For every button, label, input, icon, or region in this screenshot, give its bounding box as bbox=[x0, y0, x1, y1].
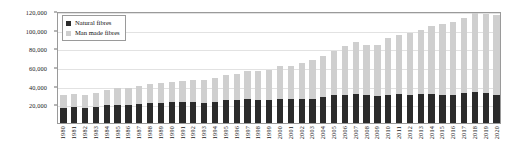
bar-group bbox=[212, 78, 218, 123]
bar-segment-man-made-fibres bbox=[125, 88, 131, 105]
bar-segment-natural-fibres bbox=[266, 100, 272, 123]
bar-segment-natural-fibres bbox=[71, 107, 77, 123]
bar-group bbox=[461, 18, 467, 123]
x-tick-label: 2013 bbox=[417, 126, 424, 139]
bar-segment-man-made-fibres bbox=[255, 71, 261, 100]
bar-group bbox=[320, 56, 326, 123]
x-axis: 1980198119821983198419851986198719881989… bbox=[0, 126, 524, 160]
x-tick-label: 2011 bbox=[395, 126, 402, 139]
bar-segment-man-made-fibres bbox=[331, 51, 337, 95]
bar-group bbox=[179, 81, 185, 123]
bar-segment-natural-fibres bbox=[461, 93, 467, 123]
x-tick-label: 1986 bbox=[124, 126, 131, 139]
bar-group bbox=[299, 63, 305, 123]
x-tick-label: 1997 bbox=[244, 126, 251, 139]
legend: Natural fibres Man made fibres bbox=[62, 15, 126, 41]
x-tick-label: 1988 bbox=[146, 126, 153, 139]
bar-segment-man-made-fibres bbox=[60, 95, 66, 108]
x-tick-label: 1998 bbox=[254, 126, 261, 139]
x-tick-label: 1984 bbox=[103, 126, 110, 139]
y-tick-label: 120,000 bbox=[26, 9, 47, 16]
bar-segment-man-made-fibres bbox=[71, 94, 77, 107]
bar-group bbox=[266, 70, 272, 123]
x-tick-label: 1985 bbox=[114, 126, 121, 139]
x-tick-label: 2020 bbox=[493, 126, 500, 139]
stacked-bar-chart: 20,00040,00060,00080,000100,000120,000 N… bbox=[0, 0, 524, 160]
y-tick-label: 60,000 bbox=[29, 65, 47, 72]
bar-group bbox=[472, 13, 478, 123]
legend-item-natural-fibres: Natural fibres bbox=[66, 18, 120, 28]
bar-segment-natural-fibres bbox=[439, 95, 445, 123]
x-tick-label: 1990 bbox=[168, 126, 175, 139]
y-tick-label: 100,000 bbox=[26, 27, 47, 34]
bar-group bbox=[136, 86, 142, 123]
bar-segment-natural-fibres bbox=[104, 105, 110, 123]
x-tick-label: 1982 bbox=[81, 126, 88, 139]
bar-segment-man-made-fibres bbox=[114, 88, 120, 104]
x-tick-label: 1980 bbox=[59, 126, 66, 139]
bar-segment-natural-fibres bbox=[82, 108, 88, 123]
bar-segment-natural-fibres bbox=[374, 96, 380, 123]
bar-segment-natural-fibres bbox=[169, 102, 175, 123]
x-tick-label: 2006 bbox=[341, 126, 348, 139]
bar-segment-man-made-fibres bbox=[493, 15, 499, 95]
x-tick-label: 2010 bbox=[384, 126, 391, 139]
bar-segment-man-made-fibres bbox=[288, 66, 294, 99]
bar-segment-natural-fibres bbox=[385, 95, 391, 123]
bar-segment-man-made-fibres bbox=[190, 80, 196, 102]
y-tick-label: 20,000 bbox=[29, 102, 47, 109]
x-tick-label: 2007 bbox=[352, 126, 359, 139]
x-tick-label: 1995 bbox=[222, 126, 229, 139]
bar-segment-man-made-fibres bbox=[223, 75, 229, 100]
bar-group bbox=[147, 84, 153, 123]
bar-segment-man-made-fibres bbox=[244, 71, 250, 99]
bar-group bbox=[483, 14, 489, 123]
bar-segment-natural-fibres bbox=[201, 103, 207, 123]
bar-segment-man-made-fibres bbox=[472, 13, 478, 92]
bar-segment-man-made-fibres bbox=[158, 83, 164, 103]
bar-segment-natural-fibres bbox=[179, 102, 185, 123]
y-tick-label: 80,000 bbox=[29, 46, 47, 53]
bar-segment-man-made-fibres bbox=[407, 33, 413, 94]
bar-group bbox=[353, 42, 359, 123]
bar-segment-man-made-fibres bbox=[320, 56, 326, 97]
bar-segment-natural-fibres bbox=[483, 93, 489, 123]
bar-group bbox=[201, 80, 207, 123]
bar-segment-natural-fibres bbox=[493, 95, 499, 123]
bar-segment-natural-fibres bbox=[190, 102, 196, 123]
bar-segment-natural-fibres bbox=[331, 95, 337, 123]
bar-segment-man-made-fibres bbox=[353, 42, 359, 94]
x-tick-label: 1996 bbox=[233, 126, 240, 139]
bar-group bbox=[288, 66, 294, 123]
bar-group bbox=[71, 94, 77, 123]
bar-segment-man-made-fibres bbox=[396, 35, 402, 93]
x-tick-label: 2008 bbox=[363, 126, 370, 139]
bar-segment-natural-fibres bbox=[450, 95, 456, 123]
bar-group bbox=[223, 75, 229, 123]
bar-group bbox=[450, 22, 456, 123]
bar-segment-natural-fibres bbox=[212, 102, 218, 123]
bar-segment-natural-fibres bbox=[93, 107, 99, 123]
bar-segment-natural-fibres bbox=[407, 95, 413, 123]
bar-segment-natural-fibres bbox=[472, 92, 478, 123]
bar-segment-man-made-fibres bbox=[136, 86, 142, 104]
x-tick-label: 2000 bbox=[276, 126, 283, 139]
bar-segment-man-made-fibres bbox=[483, 14, 489, 93]
bar-group bbox=[93, 93, 99, 123]
x-tick-label: 1991 bbox=[179, 126, 186, 139]
x-tick-label: 2015 bbox=[438, 126, 445, 139]
plot-area: Natural fibres Man made fibres bbox=[57, 12, 501, 124]
bar-segment-man-made-fibres bbox=[147, 84, 153, 103]
x-tick-label: 1994 bbox=[211, 126, 218, 139]
bar-segment-man-made-fibres bbox=[169, 82, 175, 102]
legend-swatch-man-made-fibres-icon bbox=[66, 31, 71, 36]
bar-segment-man-made-fibres bbox=[82, 95, 88, 108]
bar-group bbox=[385, 38, 391, 123]
bar-group bbox=[439, 24, 445, 123]
bar-segment-man-made-fibres bbox=[418, 30, 424, 94]
bar-group bbox=[428, 26, 434, 123]
bar-segment-man-made-fibres bbox=[201, 80, 207, 103]
bar-group bbox=[104, 90, 110, 123]
x-tick-label: 2018 bbox=[471, 126, 478, 139]
x-tick-label: 1993 bbox=[200, 126, 207, 139]
